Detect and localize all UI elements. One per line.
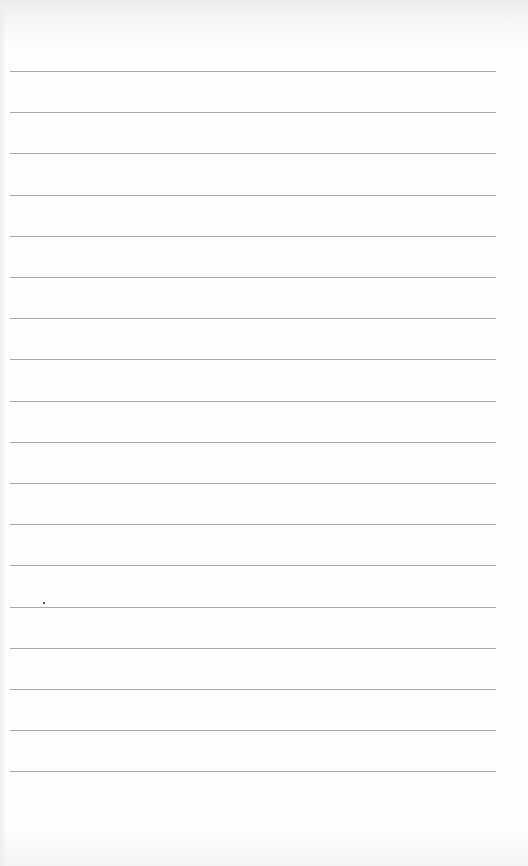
ruled-line [10, 195, 496, 196]
ruled-line [10, 153, 496, 154]
ruled-line [10, 524, 496, 525]
ruled-line [10, 689, 496, 690]
ruled-line [10, 112, 496, 113]
ruled-line [10, 401, 496, 402]
ink-speck [43, 602, 45, 604]
ruled-line [10, 71, 496, 72]
ruled-line [10, 607, 496, 608]
ruled-line [10, 483, 496, 484]
ruled-line [10, 442, 496, 443]
ruled-line [10, 318, 496, 319]
ruled-line [10, 236, 496, 237]
paper-edge-shadow [0, 0, 6, 866]
ruled-line [10, 730, 496, 731]
ruled-line [10, 565, 496, 566]
ruled-line [10, 359, 496, 360]
ruled-line [10, 277, 496, 278]
ruled-line [10, 771, 496, 772]
ruled-line [10, 648, 496, 649]
ruled-paper-page [0, 0, 528, 866]
